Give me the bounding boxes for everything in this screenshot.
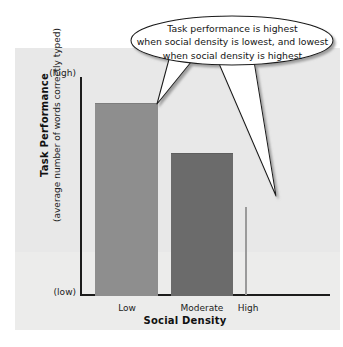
callout-line-1: Task performance is highest bbox=[131, 22, 334, 35]
y-axis-low-label: (low) bbox=[46, 287, 76, 297]
x-axis-title: Social Density bbox=[120, 315, 250, 326]
bar-high bbox=[245, 207, 247, 295]
chart-figure: (high) (low) Task Performance (average n… bbox=[0, 0, 343, 347]
y-axis-high-label: (high) bbox=[44, 68, 76, 78]
x-tick-label-high: High bbox=[218, 303, 278, 313]
callout-text-block: Task performance is highest when social … bbox=[131, 22, 334, 62]
y-axis-line bbox=[80, 77, 82, 296]
bar-moderate bbox=[171, 153, 233, 296]
callout-line-2: when social density is lowest, and lowes… bbox=[131, 35, 334, 48]
x-tick-label-low: Low bbox=[97, 303, 157, 313]
callout-line-3: when social density is highest bbox=[131, 49, 334, 62]
bar-low bbox=[95, 103, 158, 296]
